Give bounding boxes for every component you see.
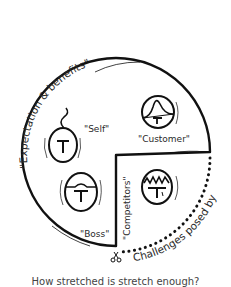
node-competitors xyxy=(142,170,178,204)
node-label-boss: "Boss" xyxy=(80,229,109,239)
t-in-oval-with-bump-icon xyxy=(60,173,101,211)
diagram-canvas: "Expectation & benefits" Challenges pose… xyxy=(0,0,231,287)
node-customer: "Customer" xyxy=(138,96,190,144)
t-in-oval-with-zigzag-icon xyxy=(142,170,178,204)
scissors-icon xyxy=(111,252,121,262)
node-label-customer: "Customer" xyxy=(138,134,190,144)
t-in-oval-with-peak-icon xyxy=(142,96,178,128)
wedge-label: "Competitors" xyxy=(122,176,132,240)
t-in-oval-with-curl-icon xyxy=(44,108,80,162)
node-self: "Self" xyxy=(44,108,109,162)
node-boss: "Boss" xyxy=(60,173,109,239)
node-label-self: "Self" xyxy=(84,124,109,134)
arc-label-bottom: Challenges posed by xyxy=(132,193,218,264)
caption: How stretched is stretch enough? xyxy=(0,276,231,287)
